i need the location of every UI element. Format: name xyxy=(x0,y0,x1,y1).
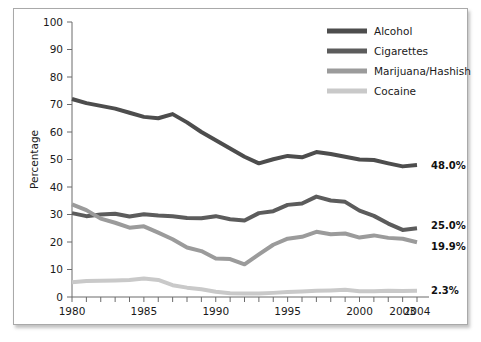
legend-label-marijuana-hashish: Marijuana/Hashish xyxy=(374,65,471,77)
x-tick-label: 1990 xyxy=(202,305,229,317)
y-tick-label: 70 xyxy=(50,98,63,110)
legend-label-cocaine: Cocaine xyxy=(374,85,416,97)
x-tick-label: 1980 xyxy=(59,305,86,317)
x-tick-label: 1995 xyxy=(274,305,301,317)
chart-figure: 0102030405060708090100198019851990199520… xyxy=(0,0,481,342)
y-tick-label: 40 xyxy=(50,181,63,193)
y-tick-label: 50 xyxy=(50,153,63,165)
y-axis-title: Percentage xyxy=(28,130,40,189)
series-line-cocaine xyxy=(72,279,417,294)
end-label-alcohol: 48.0% xyxy=(431,160,466,171)
y-tick-label: 100 xyxy=(43,16,63,28)
y-tick-label: 60 xyxy=(50,126,63,138)
series-line-alcohol xyxy=(72,99,417,166)
x-tick-label: 1985 xyxy=(131,305,158,317)
legend-label-cigarettes: Cigarettes xyxy=(374,45,428,57)
line-chart: 0102030405060708090100198019851990199520… xyxy=(0,0,481,342)
y-tick-label: 90 xyxy=(50,43,63,55)
x-tick-label: 2000 xyxy=(346,305,373,317)
y-tick-label: 30 xyxy=(50,208,63,220)
y-tick-label: 10 xyxy=(50,263,63,275)
legend-label-alcohol: Alcohol xyxy=(374,25,412,37)
end-label-cigarettes: 25.0% xyxy=(431,220,466,231)
x-tick-label: 2004 xyxy=(404,305,431,317)
y-tick-label: 20 xyxy=(50,236,63,248)
y-tick-label: 80 xyxy=(50,71,63,83)
end-label-cocaine: 2.3% xyxy=(431,285,459,296)
y-tick-label: 0 xyxy=(56,291,63,303)
end-label-marijuana-hashish: 19.9% xyxy=(431,241,466,252)
